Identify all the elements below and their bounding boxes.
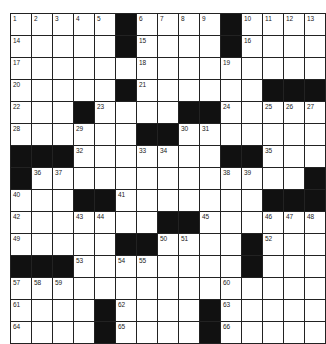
grid-cell[interactable] [242, 58, 262, 79]
grid-cell[interactable] [284, 146, 304, 167]
grid-cell[interactable]: 42 [11, 212, 31, 233]
grid-cell[interactable] [116, 124, 136, 145]
grid-cell[interactable]: 65 [116, 322, 136, 343]
grid-cell[interactable]: 9 [200, 14, 220, 35]
grid-cell[interactable] [32, 124, 52, 145]
grid-cell[interactable]: 28 [11, 124, 31, 145]
grid-cell[interactable] [179, 190, 199, 211]
grid-cell[interactable] [242, 124, 262, 145]
grid-cell[interactable]: 21 [137, 80, 157, 101]
grid-cell[interactable] [242, 300, 262, 321]
grid-cell[interactable]: 25 [263, 102, 283, 123]
grid-cell[interactable]: 27 [305, 102, 325, 123]
grid-cell[interactable] [137, 322, 157, 343]
grid-cell[interactable] [284, 58, 304, 79]
grid-cell[interactable] [305, 322, 325, 343]
grid-cell[interactable] [158, 300, 178, 321]
grid-cell[interactable] [305, 146, 325, 167]
grid-cell[interactable] [200, 168, 220, 189]
grid-cell[interactable] [221, 80, 241, 101]
grid-cell[interactable] [284, 234, 304, 255]
grid-cell[interactable] [32, 102, 52, 123]
grid-cell[interactable] [74, 234, 94, 255]
grid-cell[interactable] [200, 58, 220, 79]
grid-cell[interactable] [263, 168, 283, 189]
grid-cell[interactable] [179, 146, 199, 167]
grid-cell[interactable]: 57 [11, 278, 31, 299]
grid-cell[interactable] [32, 80, 52, 101]
grid-cell[interactable] [95, 234, 115, 255]
grid-cell[interactable] [74, 278, 94, 299]
grid-cell[interactable] [263, 322, 283, 343]
grid-cell[interactable]: 55 [137, 256, 157, 277]
grid-cell[interactable] [74, 58, 94, 79]
grid-cell[interactable] [200, 146, 220, 167]
grid-cell[interactable] [284, 36, 304, 57]
grid-cell[interactable] [74, 36, 94, 57]
grid-cell[interactable]: 14 [11, 36, 31, 57]
grid-cell[interactable] [158, 168, 178, 189]
grid-cell[interactable]: 58 [32, 278, 52, 299]
grid-cell[interactable]: 36 [32, 168, 52, 189]
grid-cell[interactable] [158, 256, 178, 277]
grid-cell[interactable] [263, 300, 283, 321]
grid-cell[interactable]: 24 [221, 102, 241, 123]
grid-cell[interactable] [158, 322, 178, 343]
grid-cell[interactable]: 4 [74, 14, 94, 35]
grid-cell[interactable] [116, 58, 136, 79]
grid-cell[interactable]: 17 [11, 58, 31, 79]
grid-cell[interactable]: 29 [74, 124, 94, 145]
grid-cell[interactable]: 35 [263, 146, 283, 167]
grid-cell[interactable]: 54 [116, 256, 136, 277]
grid-cell[interactable] [53, 322, 73, 343]
grid-cell[interactable] [221, 256, 241, 277]
grid-cell[interactable] [242, 80, 262, 101]
grid-cell[interactable] [95, 278, 115, 299]
grid-cell[interactable]: 50 [158, 234, 178, 255]
grid-cell[interactable]: 52 [263, 234, 283, 255]
grid-cell[interactable]: 16 [242, 36, 262, 57]
grid-cell[interactable] [116, 168, 136, 189]
grid-cell[interactable]: 41 [116, 190, 136, 211]
grid-cell[interactable] [221, 190, 241, 211]
grid-cell[interactable] [305, 58, 325, 79]
grid-cell[interactable] [53, 234, 73, 255]
grid-cell[interactable] [284, 322, 304, 343]
grid-cell[interactable]: 61 [11, 300, 31, 321]
grid-cell[interactable] [263, 36, 283, 57]
grid-cell[interactable]: 53 [74, 256, 94, 277]
grid-cell[interactable] [200, 36, 220, 57]
grid-cell[interactable] [179, 256, 199, 277]
grid-cell[interactable] [200, 234, 220, 255]
grid-cell[interactable]: 20 [11, 80, 31, 101]
grid-cell[interactable] [242, 102, 262, 123]
grid-cell[interactable] [242, 278, 262, 299]
grid-cell[interactable] [284, 300, 304, 321]
grid-cell[interactable] [263, 278, 283, 299]
grid-cell[interactable] [305, 278, 325, 299]
grid-cell[interactable]: 47 [284, 212, 304, 233]
grid-cell[interactable]: 51 [179, 234, 199, 255]
grid-cell[interactable]: 26 [284, 102, 304, 123]
grid-cell[interactable] [158, 36, 178, 57]
grid-cell[interactable] [179, 58, 199, 79]
grid-cell[interactable] [53, 124, 73, 145]
grid-cell[interactable] [137, 102, 157, 123]
grid-cell[interactable] [179, 80, 199, 101]
grid-cell[interactable] [179, 300, 199, 321]
grid-cell[interactable] [95, 80, 115, 101]
grid-cell[interactable] [137, 300, 157, 321]
grid-cell[interactable] [116, 102, 136, 123]
grid-cell[interactable] [263, 124, 283, 145]
grid-cell[interactable] [74, 168, 94, 189]
grid-cell[interactable] [95, 168, 115, 189]
grid-cell[interactable] [95, 124, 115, 145]
grid-cell[interactable]: 11 [263, 14, 283, 35]
grid-cell[interactable] [32, 58, 52, 79]
grid-cell[interactable] [137, 190, 157, 211]
grid-cell[interactable] [242, 322, 262, 343]
grid-cell[interactable]: 37 [53, 168, 73, 189]
grid-cell[interactable]: 30 [179, 124, 199, 145]
grid-cell[interactable] [116, 278, 136, 299]
grid-cell[interactable] [305, 124, 325, 145]
